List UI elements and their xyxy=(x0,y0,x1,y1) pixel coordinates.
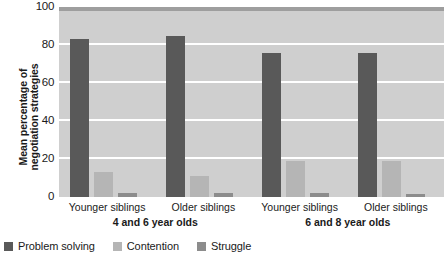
plot-area xyxy=(59,7,444,197)
bar-problem-solving-group-3 xyxy=(262,53,281,197)
bar-chart: Mean percentage of negotiation strategie… xyxy=(0,0,444,268)
y-tick-label-80: 80 xyxy=(14,39,54,51)
bar-struggle-group-4 xyxy=(406,194,425,197)
gridline-20 xyxy=(59,157,444,159)
bar-struggle-group-2 xyxy=(214,193,233,197)
y-tick-label-60: 60 xyxy=(14,77,54,89)
bar-problem-solving-group-1 xyxy=(70,39,89,197)
bar-contention-group-1 xyxy=(94,172,113,197)
bar-contention-group-4 xyxy=(382,161,401,197)
bar-struggle-group-1 xyxy=(118,193,137,197)
legend: Problem solvingContentionStruggle xyxy=(4,240,269,252)
x-tick-label-3: Younger siblings xyxy=(252,201,348,213)
y-tick-label-0: 0 xyxy=(14,191,54,203)
legend-item-struggle[interactable]: Struggle xyxy=(197,240,251,252)
x-tick-label-4: Older siblings xyxy=(348,201,444,213)
y-tick-label-20: 20 xyxy=(14,153,54,165)
x-tick-label-2: Older siblings xyxy=(155,201,251,213)
legend-swatch-icon-1 xyxy=(4,242,13,251)
bar-contention-group-2 xyxy=(190,176,209,197)
y-tick-label-100: 100 xyxy=(14,1,54,13)
legend-label-1: Problem solving xyxy=(18,240,95,252)
legend-swatch-icon-2 xyxy=(113,242,122,251)
plot-top-band xyxy=(59,7,444,11)
legend-swatch-icon-3 xyxy=(197,242,206,251)
gridline-40 xyxy=(59,119,444,121)
y-tick-label-40: 40 xyxy=(14,115,54,127)
bar-contention-group-3 xyxy=(286,161,305,197)
legend-label-2: Contention xyxy=(127,240,179,252)
x-tick-label-1: Younger siblings xyxy=(59,201,155,213)
bar-problem-solving-group-2 xyxy=(166,36,185,198)
bar-problem-solving-group-4 xyxy=(358,53,377,197)
x-axis-group-label-2: 6 and 8 year olds xyxy=(252,216,444,228)
bar-struggle-group-3 xyxy=(310,193,329,197)
x-axis-group-label-1: 4 and 6 year olds xyxy=(59,216,252,228)
legend-item-problem-solving[interactable]: Problem solving xyxy=(4,240,95,252)
gridline-60 xyxy=(59,81,444,83)
gridline-80 xyxy=(59,43,444,45)
legend-item-contention[interactable]: Contention xyxy=(113,240,179,252)
legend-label-3: Struggle xyxy=(211,240,251,252)
